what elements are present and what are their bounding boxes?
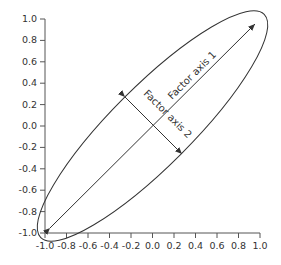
x-tick-label: 0.0 [145,240,160,251]
y-tick-label: 0.2 [22,99,37,110]
y-tick-label: 0.0 [22,120,37,131]
x-tick-label: 0.2 [166,240,181,251]
x-tick-labels: -1.0 -0.8 -0.6 -0.4 -0.2 0.0 0.2 0.4 0.6… [36,240,268,251]
y-tick-label: 0.4 [22,77,37,88]
y-tick-label: 0.6 [22,56,37,67]
y-tick-labels: 1.0 0.8 0.6 0.4 0.2 0.0 -0.2 -0.4 -0.6 -… [18,13,37,238]
y-tick-label: 1.0 [22,13,37,24]
x-tick-label: 0.8 [231,240,246,251]
y-tick-label: -0.2 [18,141,37,152]
x-tick-label: -0.8 [57,240,76,251]
x-tick-label: -0.4 [100,240,119,251]
x-tick-label: 0.6 [209,240,224,251]
y-tick-label: -0.8 [18,206,37,217]
y-tick-label: -0.6 [18,184,37,195]
y-axis [40,19,45,233]
y-tick-label: 0.8 [22,34,37,45]
x-tick-label: 0.4 [188,240,203,251]
y-tick-label: -1.0 [18,227,37,238]
x-tick-label: 1.0 [252,240,267,251]
x-tick-label: -0.2 [122,240,141,251]
factor-axis-1-arrow [50,24,255,228]
factor-axis-1-label: Factor axis 1 [166,49,219,102]
factor-diagram: 1.0 0.8 0.6 0.4 0.2 0.0 -0.2 -0.4 -0.6 -… [0,0,281,265]
x-tick-label: -0.6 [79,240,98,251]
y-tick-label: -0.4 [18,163,37,174]
